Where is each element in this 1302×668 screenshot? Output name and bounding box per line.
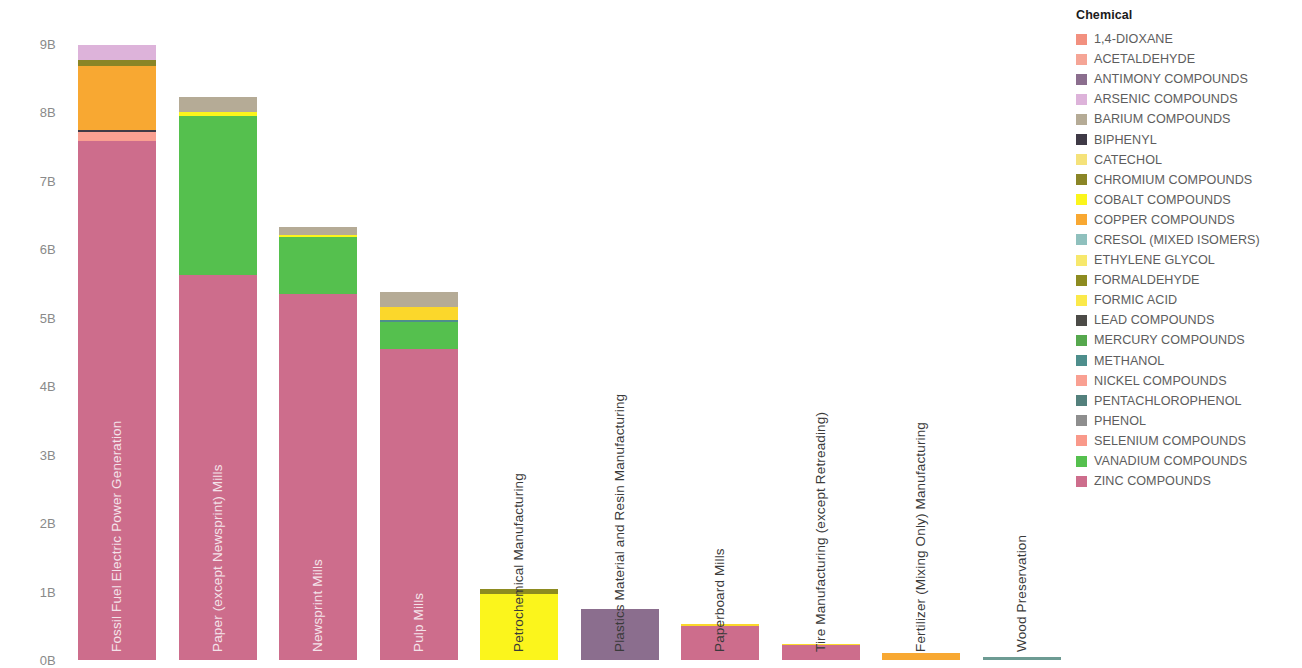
legend-item-label: BIPHENYL bbox=[1094, 133, 1157, 147]
legend-item[interactable]: METHANOL bbox=[1076, 351, 1302, 371]
bar-fossil-fuel-electric-power-generation[interactable] bbox=[78, 45, 156, 660]
bar-label: Wood Preservation bbox=[1014, 535, 1029, 652]
legend-item[interactable]: LEAD COMPOUNDS bbox=[1076, 310, 1302, 330]
legend-swatch-icon bbox=[1076, 134, 1087, 145]
y-tick-7B: 7B bbox=[40, 173, 56, 188]
y-tick-5B: 5B bbox=[40, 310, 56, 325]
segment-cobalt-compounds[interactable] bbox=[480, 594, 558, 660]
y-tick-2B: 2B bbox=[40, 516, 56, 531]
y-axis-tick-labels: 0B1B2B3B4B5B6B7B8B9B bbox=[0, 24, 62, 660]
legend-item[interactable]: NICKEL COMPOUNDS bbox=[1076, 371, 1302, 391]
legend-item[interactable]: BARIUM COMPOUNDS bbox=[1076, 109, 1302, 129]
legend-item[interactable]: PENTACHLOROPHENOL bbox=[1076, 391, 1302, 411]
legend-item[interactable]: 1,4-DIOXANE bbox=[1076, 29, 1302, 49]
legend-item-label: PHENOL bbox=[1094, 414, 1146, 428]
legend-item[interactable]: BIPHENYL bbox=[1076, 129, 1302, 149]
legend-item[interactable]: ZINC COMPOUNDS bbox=[1076, 471, 1302, 491]
y-tick-8B: 8B bbox=[40, 105, 56, 120]
legend-swatch-icon bbox=[1076, 114, 1087, 125]
legend-swatch-icon bbox=[1076, 234, 1087, 245]
segment-zinc-compounds[interactable] bbox=[782, 645, 860, 660]
segment-arsenic-compounds[interactable] bbox=[78, 45, 156, 60]
bar-tire-manufacturing-except-retreading[interactable] bbox=[782, 644, 860, 660]
segment-barium-compounds[interactable] bbox=[380, 292, 458, 306]
legend-item-label: ARSENIC COMPOUNDS bbox=[1094, 92, 1238, 106]
bar-newsprint-mills[interactable] bbox=[279, 227, 357, 660]
segment-barium-compounds[interactable] bbox=[279, 227, 357, 235]
segment-cobalt-compounds[interactable] bbox=[380, 307, 458, 321]
legend-item-label: SELENIUM COMPOUNDS bbox=[1094, 434, 1246, 448]
legend-item-label: ACETALDEHYDE bbox=[1094, 52, 1195, 66]
legend-item[interactable]: CRESOL (MIXED ISOMERS) bbox=[1076, 230, 1302, 250]
legend-item[interactable]: ANTIMONY COMPOUNDS bbox=[1076, 69, 1302, 89]
legend-item[interactable]: COPPER COMPOUNDS bbox=[1076, 210, 1302, 230]
segment-selenium-compounds[interactable] bbox=[78, 132, 156, 142]
segment-vanadium-compounds[interactable] bbox=[179, 116, 257, 275]
legend-item-label: METHANOL bbox=[1094, 354, 1164, 368]
bar-label: Tire Manufacturing (except Retreading) bbox=[813, 412, 828, 652]
legend-swatch-icon bbox=[1076, 94, 1087, 105]
legend-swatch-icon bbox=[1076, 415, 1087, 426]
legend-item-label: LEAD COMPOUNDS bbox=[1094, 313, 1214, 327]
bar-pulp-mills[interactable] bbox=[380, 292, 458, 660]
legend-item[interactable]: COBALT COMPOUNDS bbox=[1076, 190, 1302, 210]
bar-paper-except-newsprint-mills[interactable] bbox=[179, 97, 257, 660]
segment-methanol[interactable] bbox=[983, 657, 1061, 660]
y-tick-4B: 4B bbox=[40, 379, 56, 394]
legend-swatch-icon bbox=[1076, 355, 1087, 366]
legend-item[interactable]: ETHYLENE GLYCOL bbox=[1076, 250, 1302, 270]
legend-item[interactable]: CATECHOL bbox=[1076, 150, 1302, 170]
legend-swatch-icon bbox=[1076, 315, 1087, 326]
y-tick-9B: 9B bbox=[40, 36, 56, 51]
legend-swatch-icon bbox=[1076, 435, 1087, 446]
bar-label: Fertilizer (Mixing Only) Manufacturing bbox=[913, 422, 928, 652]
segment-copper-compounds[interactable] bbox=[882, 653, 960, 660]
legend-swatch-icon bbox=[1076, 335, 1087, 346]
segment-copper-compounds[interactable] bbox=[78, 66, 156, 130]
legend-item-label: FORMALDEHYDE bbox=[1094, 273, 1200, 287]
legend-item-label: CATECHOL bbox=[1094, 153, 1162, 167]
segment-zinc-compounds[interactable] bbox=[681, 626, 759, 660]
bar-wood-preservation[interactable] bbox=[983, 657, 1061, 660]
legend-swatch-icon bbox=[1076, 275, 1087, 286]
legend-item[interactable]: VANADIUM COMPOUNDS bbox=[1076, 451, 1302, 471]
legend-item-label: CRESOL (MIXED ISOMERS) bbox=[1094, 233, 1260, 247]
legend-items: 1,4-DIOXANEACETALDEHYDEANTIMONY COMPOUND… bbox=[1076, 29, 1302, 491]
legend-item-label: MERCURY COMPOUNDS bbox=[1094, 333, 1245, 347]
legend-item-label: NICKEL COMPOUNDS bbox=[1094, 374, 1227, 388]
segment-zinc-compounds[interactable] bbox=[78, 141, 156, 660]
y-tick-3B: 3B bbox=[40, 447, 56, 462]
legend: Chemical 1,4-DIOXANEACETALDEHYDEANTIMONY… bbox=[1076, 8, 1302, 491]
legend-item[interactable]: FORMALDEHYDE bbox=[1076, 270, 1302, 290]
bar-petrochemical-manufacturing[interactable] bbox=[480, 589, 558, 660]
legend-item[interactable]: ARSENIC COMPOUNDS bbox=[1076, 89, 1302, 109]
legend-item[interactable]: SELENIUM COMPOUNDS bbox=[1076, 431, 1302, 451]
y-tick-6B: 6B bbox=[40, 242, 56, 257]
bar-paperboard-mills[interactable] bbox=[681, 624, 759, 660]
legend-item[interactable]: FORMIC ACID bbox=[1076, 290, 1302, 310]
legend-swatch-icon bbox=[1076, 154, 1087, 165]
legend-swatch-icon bbox=[1076, 34, 1087, 45]
segment-antimony-compounds[interactable] bbox=[581, 609, 659, 660]
legend-title: Chemical bbox=[1076, 8, 1302, 22]
legend-item[interactable]: MERCURY COMPOUNDS bbox=[1076, 330, 1302, 350]
y-tick-0B: 0B bbox=[40, 653, 56, 668]
segment-zinc-compounds[interactable] bbox=[279, 294, 357, 660]
legend-item[interactable]: PHENOL bbox=[1076, 411, 1302, 431]
segment-zinc-compounds[interactable] bbox=[179, 275, 257, 660]
legend-swatch-icon bbox=[1076, 395, 1087, 406]
legend-swatch-icon bbox=[1076, 375, 1087, 386]
legend-swatch-icon bbox=[1076, 476, 1087, 487]
segment-vanadium-compounds[interactable] bbox=[380, 322, 458, 349]
bar-fertilizer-mixing-only-manufacturing[interactable] bbox=[882, 653, 960, 660]
segment-zinc-compounds[interactable] bbox=[380, 349, 458, 660]
legend-swatch-icon bbox=[1076, 74, 1087, 85]
legend-item[interactable]: CHROMIUM COMPOUNDS bbox=[1076, 170, 1302, 190]
segment-vanadium-compounds[interactable] bbox=[279, 237, 357, 294]
legend-item-label: 1,4-DIOXANE bbox=[1094, 32, 1173, 46]
legend-item-label: ANTIMONY COMPOUNDS bbox=[1094, 72, 1248, 86]
bar-plastics-material-and-resin-manufacturing[interactable] bbox=[581, 609, 659, 660]
segment-barium-compounds[interactable] bbox=[179, 97, 257, 111]
legend-item[interactable]: ACETALDEHYDE bbox=[1076, 49, 1302, 69]
